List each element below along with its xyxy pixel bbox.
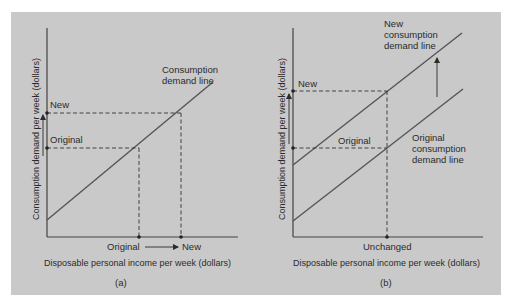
consumption-demand-diagram: Consumptiondemand line New Original Orig… [0,0,513,307]
panel-a-point-x-new [179,235,183,239]
panel-b-new-line-label-1: New [384,18,403,29]
panel-b-caption: (b) [380,277,392,288]
panel-a-line-label-1: Consumption [162,64,218,75]
panel-a-caption: (a) [115,277,127,288]
panel-b-x-axis-title: Disposable personal income per week (dol… [293,258,480,268]
panel-b-point-y-new [291,89,295,93]
panel-a-x-axis-title: Disposable personal income per week (dol… [44,258,231,268]
panel-a-y-axis-title: Consumption demand per week (dollars) [31,58,41,220]
panel-a-consumption-demand-line [47,82,213,220]
panel-a-x-original-label: Original [107,241,140,252]
panel-b-orig-line-label-2: consumption [412,143,466,154]
panel-b-y-new-label: New [298,78,317,89]
panel-a-x-new-label: New [182,241,201,252]
panel-b-new-line-label: Newconsumptiondemand line [384,18,438,51]
panel-b-point-x-unchanged [385,235,389,239]
panel-b-y-original-label: Original [338,135,371,146]
panel-b-x-unchanged-label: Unchanged [363,241,412,252]
panel-b-y-axis-title: Consumption demand per week (dollars) [277,58,287,220]
panel-a-line-label-2: demand line [162,75,214,86]
panel-b-orig-line-label-1: Original [412,132,445,143]
panel-a-line-label: Consumptiondemand line [162,64,218,86]
panel-b-orig-line-label: Originalconsumptiondemand line [412,132,466,165]
panel-b-point-y-original [291,146,295,150]
panel-a-point-y-original [45,146,49,150]
panel-b-new-line-label-2: consumption [384,29,438,40]
panel-b-new-line-label-3: demand line [384,40,436,51]
panel-b-orig-line-label-3: demand line [412,154,464,165]
panel-a-y-new-label: New [50,99,69,110]
panel-b: Newconsumptiondemand line Originalconsum… [277,18,483,288]
panel-a-y-original-label: Original [50,134,83,145]
panel-a-point-x-original [137,235,141,239]
panel-a-point-y-new [45,111,49,115]
panel-a: Consumptiondemand line New Original Orig… [31,28,238,288]
